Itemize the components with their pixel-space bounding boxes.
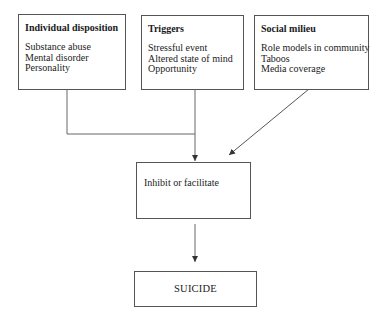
factor-title: Triggers (148, 23, 184, 34)
mediator-label: Inhibit or facilitate (144, 177, 219, 188)
factor-title: Individual disposition (25, 22, 118, 33)
outcome-box: SUICIDE (134, 271, 257, 307)
factor-box-triggers: Triggers Stressful event Altered state o… (141, 15, 244, 90)
factor-items: Role models in community Taboos Media co… (261, 43, 370, 75)
factor-title: Social milieu (261, 23, 316, 34)
factor-items: Stressful event Altered state of mind Op… (148, 43, 233, 75)
suicide-factors-diagram: Individual disposition Substance abuse M… (0, 0, 385, 316)
factor-item: Media coverage (261, 64, 370, 75)
edge-individual-to-join (67, 89, 195, 134)
edge-social-to-mediator (229, 89, 309, 155)
factor-item: Opportunity (148, 64, 233, 75)
mediator-box: Inhibit or facilitate (136, 162, 251, 219)
factor-item: Personality (25, 63, 91, 74)
outcome-label: SUICIDE (135, 283, 256, 295)
factor-box-individual-disposition: Individual disposition Substance abuse M… (18, 14, 126, 90)
factor-items: Substance abuse Mental disorder Personal… (25, 42, 91, 74)
factor-box-social-milieu: Social milieu Role models in community T… (254, 15, 369, 90)
